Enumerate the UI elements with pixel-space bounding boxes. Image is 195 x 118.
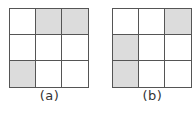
- empty-cell-r2-c1: [36, 61, 62, 87]
- caption-b: (b): [112, 88, 193, 103]
- caption-a: (a): [9, 88, 90, 103]
- empty-cell-r0-c0: [10, 9, 36, 35]
- shaded-cell-r0-c2: [62, 9, 88, 35]
- empty-cell-r0-c0: [113, 9, 139, 35]
- shaded-cell-r1-c0: [113, 35, 139, 61]
- grid-a: [9, 8, 89, 88]
- figure-a: [9, 8, 89, 88]
- shaded-cell-r2-c0: [10, 61, 36, 87]
- empty-cell-r1-c0: [10, 35, 36, 61]
- empty-cell-r1-c2: [165, 35, 191, 61]
- empty-cell-r0-c1: [139, 9, 165, 35]
- empty-cell-r2-c2: [165, 61, 191, 87]
- empty-cell-r1-c2: [62, 35, 88, 61]
- empty-cell-r2-c1: [139, 61, 165, 87]
- empty-cell-r2-c2: [62, 61, 88, 87]
- figure-b: [112, 8, 192, 88]
- empty-cell-r1-c1: [36, 35, 62, 61]
- grid-b: [112, 8, 192, 88]
- empty-cell-r1-c1: [139, 35, 165, 61]
- shaded-cell-r0-c2: [165, 9, 191, 35]
- shaded-cell-r0-c1: [36, 9, 62, 35]
- shaded-cell-r2-c0: [113, 61, 139, 87]
